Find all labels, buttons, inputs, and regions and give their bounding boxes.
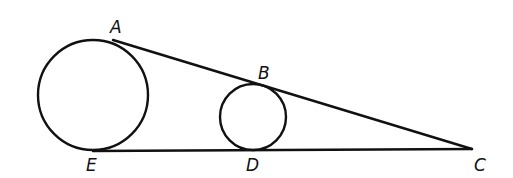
geometry-diagram: A B C D E	[0, 0, 513, 178]
line-AC	[113, 40, 472, 149]
label-A: A	[109, 17, 122, 37]
label-C: C	[474, 155, 486, 175]
label-D: D	[246, 155, 259, 175]
large-circle	[38, 40, 148, 150]
label-E: E	[86, 155, 97, 175]
line-EC	[93, 149, 472, 151]
label-B: B	[258, 63, 270, 83]
small-circle	[220, 84, 286, 150]
